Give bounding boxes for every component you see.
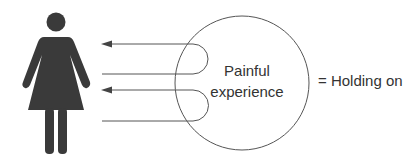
arrowhead-1-icon [101, 41, 112, 48]
loop-arrow-2 [102, 90, 209, 121]
arrowhead-2-icon [101, 87, 112, 94]
circle-label: Painful experience [197, 60, 297, 102]
woman-figure-icon [22, 13, 90, 155]
circle-label-line1: Painful [197, 60, 297, 81]
circle-label-line2: experience [197, 81, 297, 102]
equation-label: = Holding on [318, 72, 403, 89]
loop-arrow-1 [102, 44, 208, 74]
